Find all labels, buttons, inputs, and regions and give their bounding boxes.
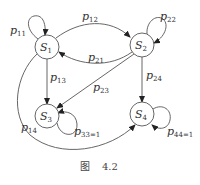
node-s3: S3 [35, 104, 59, 128]
node-s1: S1 [35, 35, 59, 59]
node-s2: S2 [130, 33, 154, 57]
figure-caption: 图4.2 [80, 161, 118, 172]
label-p22: p22 [160, 10, 176, 24]
label-p13: p13 [50, 71, 66, 85]
label-p24: p24 [146, 69, 163, 83]
node-s4: S4 [130, 102, 154, 126]
label-p23: p23 [93, 81, 109, 95]
label-p11: p11 [10, 24, 26, 38]
label-p33: p33=1 [74, 125, 100, 139]
label-p44: p44=1 [167, 125, 193, 139]
label-p14: p14 [21, 121, 38, 135]
edge-p12 [56, 24, 130, 38]
state-diagram: S1 S2 S3 S4 p11 p22 p12 p21 p13 p23 p24 … [0, 0, 200, 185]
label-p21: p21 [88, 51, 104, 65]
label-p12: p12 [82, 10, 98, 24]
